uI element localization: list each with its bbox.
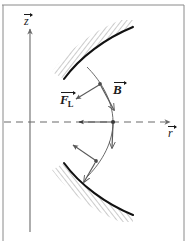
- b-field-label-text: B: [113, 82, 122, 97]
- lorentz-force-lower-arrow: [73, 145, 95, 160]
- b-field-lower-arrow: [84, 163, 95, 182]
- vector-arrow-r: [168, 126, 176, 127]
- lorentz-force-label: FL: [60, 92, 75, 108]
- axis-label-r-text: r: [168, 126, 173, 140]
- figure-canvas: [0, 0, 187, 241]
- axis-label-z-text: z: [24, 14, 29, 28]
- vector-arrow-z: [24, 14, 32, 15]
- axis-label-z: z: [24, 14, 32, 29]
- physics-figure: z r B FL: [0, 0, 187, 241]
- lorentz-force-subscript: L: [68, 99, 74, 109]
- axis-label-r: r: [168, 126, 176, 141]
- lower-pole-piece: [52, 163, 133, 222]
- vector-arrow-f: [61, 92, 75, 93]
- upper-pole-piece: [52, 20, 133, 79]
- vector-arrow-b: [114, 82, 126, 83]
- lorentz-force-upper-arrow: [76, 85, 99, 99]
- b-field-center-arrow: [112, 124, 113, 148]
- b-field-label: B: [113, 82, 126, 98]
